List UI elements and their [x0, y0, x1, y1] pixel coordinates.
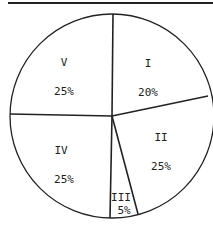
slice-pct-IV: 25% — [54, 173, 74, 186]
pie-chart: I 20% II 25% III 5% IV 25% V 25% — [0, 0, 213, 234]
slice-pct-III: 5% — [117, 204, 131, 217]
slice-label-III: III — [111, 191, 131, 204]
slice-label-IV: IV — [54, 144, 68, 157]
boundary-V-I — [112, 14, 113, 116]
slice-pct-V: 25% — [54, 85, 74, 98]
slice-pct-II: 25% — [151, 160, 171, 173]
slice-pct-I: 20% — [138, 86, 158, 99]
slice-label-II: II — [154, 131, 167, 144]
slice-label-V: V — [61, 56, 68, 69]
slice-label-I: I — [145, 57, 152, 70]
